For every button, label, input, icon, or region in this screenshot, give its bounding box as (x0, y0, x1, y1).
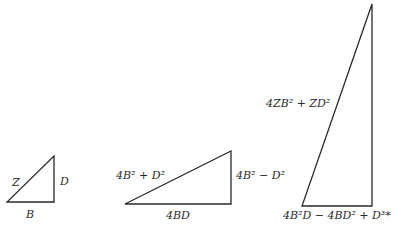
small-vertical-label: D (60, 176, 69, 187)
small-base-label: B (26, 209, 34, 220)
large-hypotenuse-label: 4ZB² + ZD² (266, 98, 330, 109)
large-base-label: 4B²D − 4BD² + D³* (283, 210, 391, 221)
small-hypotenuse-label: Z (12, 177, 20, 188)
medium-base-label: 4BD (166, 210, 190, 221)
medium-hypotenuse-label: 4B² + D² (116, 170, 165, 181)
triangles-diagram (0, 0, 397, 235)
medium-vertical-label: 4B² − D² (236, 170, 285, 181)
